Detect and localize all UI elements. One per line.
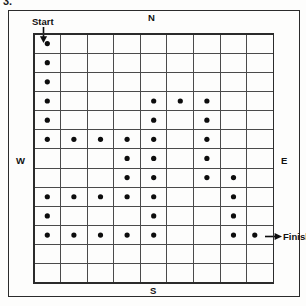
grid-dot xyxy=(124,156,129,161)
grid-dot xyxy=(124,232,129,237)
grid-dot xyxy=(71,232,76,237)
grid-dot xyxy=(151,156,156,161)
grid-dot xyxy=(71,194,76,199)
grid-dot xyxy=(204,98,209,103)
grid-dot xyxy=(45,213,50,218)
grid-dot xyxy=(204,118,209,123)
grid-dot xyxy=(98,137,103,142)
grid-dot xyxy=(45,60,50,65)
grid-dot xyxy=(45,194,50,199)
grid-dot xyxy=(151,98,156,103)
grid-dot xyxy=(71,137,76,142)
finish-label: Finish xyxy=(283,231,306,242)
grid-dot xyxy=(231,194,236,199)
grid-dot xyxy=(231,232,236,237)
compass-label-south: S xyxy=(150,285,157,296)
grid-dot xyxy=(151,137,156,142)
grid-dot xyxy=(124,194,129,199)
grid-dot xyxy=(151,213,156,218)
grid-dot xyxy=(151,194,156,199)
grid-dot xyxy=(151,118,156,123)
maze-grid xyxy=(33,33,274,284)
grid-dot xyxy=(45,118,50,123)
grid-dot xyxy=(204,175,209,180)
question-number: 3. xyxy=(3,0,12,7)
grid-dot xyxy=(124,175,129,180)
grid-dot xyxy=(204,137,209,142)
grid-dot xyxy=(124,137,129,142)
maze-grid-svg xyxy=(33,33,274,284)
grid-dot xyxy=(98,232,103,237)
grid-dot xyxy=(45,41,50,46)
grid-dot xyxy=(151,232,156,237)
grid-dot xyxy=(45,98,50,103)
grid-dot xyxy=(204,156,209,161)
grid-dot xyxy=(45,79,50,84)
grid-dot xyxy=(231,175,236,180)
compass-label-west: W xyxy=(16,155,25,166)
compass-label-east: E xyxy=(281,155,288,166)
grid-dot xyxy=(231,213,236,218)
grid-dot xyxy=(45,137,50,142)
grid-dot xyxy=(45,232,50,237)
maze-grid-figure: 3. N S W E Start Finish xyxy=(0,0,306,306)
start-label: Start xyxy=(32,16,54,27)
grid-dot xyxy=(252,232,257,237)
grid-dot xyxy=(151,175,156,180)
compass-label-north: N xyxy=(148,12,155,23)
grid-dot xyxy=(98,194,103,199)
grid-dot xyxy=(178,98,183,103)
